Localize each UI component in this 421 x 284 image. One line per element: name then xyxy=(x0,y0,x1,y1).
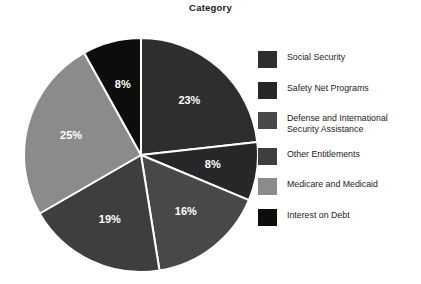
legend-item[interactable]: Social Security xyxy=(258,50,418,68)
legend-item-label: Defense and International Security Assis… xyxy=(287,111,388,134)
legend-item-label: Interest on Debt xyxy=(287,208,350,221)
legend-swatch-icon xyxy=(258,178,277,195)
pie-plot-area: 23%8%16%19%25%8% xyxy=(23,37,259,273)
legend-swatch-icon xyxy=(258,82,277,99)
legend-item[interactable]: Defense and International Security Assis… xyxy=(258,111,418,134)
legend-item-label: Other Entitlements xyxy=(287,147,360,160)
chart-title: Category xyxy=(0,2,421,13)
pie-svg: 23%8%16%19%25%8% xyxy=(23,37,259,273)
pie-slice-label: 19% xyxy=(99,213,121,225)
legend-item-label: Safety Net Programs xyxy=(287,81,369,94)
legend-swatch-icon xyxy=(258,112,277,129)
pie-slice-label: 16% xyxy=(175,205,197,217)
legend: Social SecuritySafety Net ProgramsDefens… xyxy=(258,50,418,238)
legend-swatch-icon xyxy=(258,51,277,68)
pie-slice-label: 8% xyxy=(115,78,131,90)
pie-slice-label: 23% xyxy=(178,94,200,106)
legend-item[interactable]: Safety Net Programs xyxy=(258,81,418,99)
legend-item-label: Medicare and Medicaid xyxy=(287,177,378,190)
legend-swatch-icon xyxy=(258,209,277,226)
legend-item[interactable]: Interest on Debt xyxy=(258,208,418,226)
pie-slice-label: 25% xyxy=(60,129,82,141)
legend-item[interactable]: Other Entitlements xyxy=(258,147,418,165)
legend-swatch-icon xyxy=(258,148,277,165)
pie-slice-label: 8% xyxy=(205,158,221,170)
legend-item[interactable]: Medicare and Medicaid xyxy=(258,177,418,195)
pie-chart-figure: Category 23%8%16%19%25%8% Social Securit… xyxy=(0,0,421,284)
pie-slice-group xyxy=(24,38,258,272)
legend-item-label: Social Security xyxy=(287,50,345,63)
